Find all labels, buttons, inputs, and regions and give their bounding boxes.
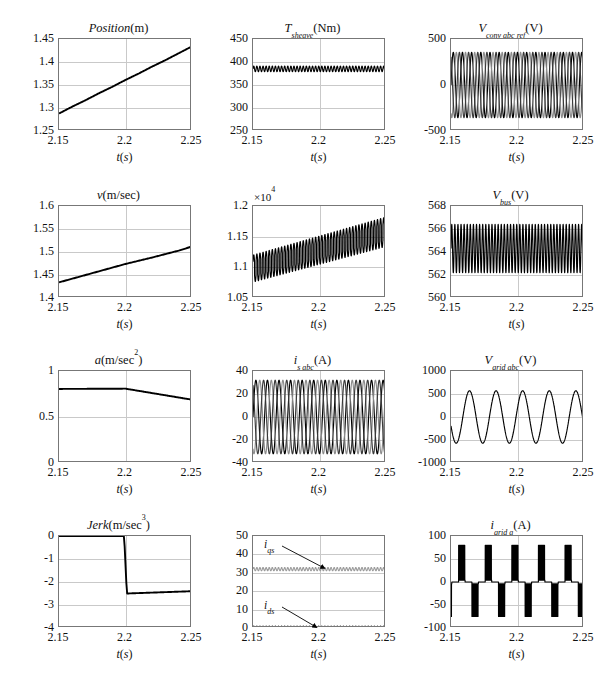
chart-title-i_grid_a: igrid a(A) [444, 518, 577, 532]
gridline-horizontal [253, 394, 384, 395]
y-tick-label: 1.35 [8, 77, 54, 92]
y-tick-label: 1.15 [202, 228, 248, 243]
y-tick-label: 0 [400, 574, 446, 589]
x-axis-label-position: t(s) [58, 150, 191, 165]
y-tick-label: -500 [400, 123, 446, 138]
x-axis-label-v_bus: t(s) [450, 317, 583, 332]
chart-traces-acceleration [59, 371, 191, 462]
x-tick-label: 2.15 [242, 630, 263, 645]
x-tick-label: 2.25 [181, 630, 202, 645]
x-tick-label: 2.15 [48, 465, 69, 480]
chart-axes-v_conv_abc_ref [450, 38, 583, 130]
chart-axes-acceleration [58, 370, 191, 462]
y-tick-label: 250 [202, 123, 248, 138]
series-phase-b [451, 52, 583, 117]
x-tick-label: 2.2 [311, 465, 326, 480]
chart-axes-p_m [252, 205, 385, 297]
y-tick-label: -3 [8, 597, 54, 612]
x-tick-label: 2.15 [242, 465, 263, 480]
chart-axes-position [58, 38, 191, 130]
x-tick-label: 2.2 [117, 630, 132, 645]
y-tick-label: 0 [202, 620, 248, 635]
x-tick-label: 2.15 [48, 133, 69, 148]
x-tick-label: 2.25 [375, 300, 396, 315]
x-tick-label: 2.2 [311, 630, 326, 645]
chart-title-position: Position(m) [52, 21, 185, 35]
y-tick-label: 0 [400, 409, 446, 424]
y-tick-label: 568 [400, 198, 446, 213]
y-tick-label: 1.6 [8, 198, 54, 213]
chart-panel-i_dq: 010203040502.152.22.25t(s)iqsids [0, 0, 594, 676]
chart-traces-velocity [59, 206, 191, 297]
gridline-horizontal [59, 85, 190, 86]
x-tick-label: 2.15 [242, 300, 263, 315]
gridline-horizontal [253, 554, 384, 555]
chart-traces-t_sheave [253, 39, 385, 130]
gridline-horizontal [451, 582, 582, 583]
x-tick-label: 2.25 [181, 300, 202, 315]
y-tick-label: 0 [8, 455, 54, 470]
y-tick-label: 1000 [400, 363, 446, 378]
chart-panel-acceleration: a(m/sec2)00.512.152.22.25t(s) [0, 0, 594, 676]
gridline-horizontal [451, 85, 582, 86]
chart-traces-p_m [253, 206, 385, 297]
chart-panel-v_conv_abc_ref: Vconv abc ref(V)-50005002.152.22.25t(s) [0, 0, 594, 676]
y-tick-label: 50 [202, 528, 248, 543]
y-tick-label: 560 [400, 290, 446, 305]
gridline-vertical [320, 536, 321, 626]
y-tick-label: 1.1 [202, 259, 248, 274]
chart-panel-velocity: v(m/sec)1.41.451.51.551.62.152.22.25t(s) [0, 0, 594, 676]
series-phase-a [451, 52, 583, 117]
gridline-horizontal [59, 229, 190, 230]
gridline-horizontal [59, 108, 190, 109]
y-tick-label: 1.05 [202, 290, 248, 305]
chart-axes-i_dq [252, 535, 385, 627]
y-tick-label: -500 [400, 432, 446, 447]
y-tick-label: 0.5 [8, 409, 54, 424]
x-tick-label: 2.15 [242, 133, 263, 148]
chart-panel-p_m: Pm(W)×1041.051.11.151.22.152.22.25t(s) [0, 0, 594, 676]
series-i_grid-a [451, 545, 583, 616]
series-V_bus [451, 224, 583, 272]
x-tick-label: 2.2 [311, 300, 326, 315]
chart-panel-i_s_abc: is abc(A)-40-20020402.152.22.25t(s) [0, 0, 594, 676]
series-phase-c [451, 52, 583, 117]
chart-traces-jerk [59, 536, 191, 627]
series-phase-a [253, 380, 385, 454]
series-position [59, 46, 191, 113]
y-tick-label: -40 [202, 455, 248, 470]
x-axis-label-i_grid_a: t(s) [450, 647, 583, 662]
x-tick-label: 2.2 [117, 300, 132, 315]
gridline-vertical [320, 206, 321, 296]
y-tick-label: 1.25 [8, 123, 54, 138]
chart-axes-i_s_abc [252, 370, 385, 462]
y-tick-label: -2 [8, 574, 54, 589]
y-tick-label: 564 [400, 244, 446, 259]
x-axis-label-t_sheave: t(s) [252, 150, 385, 165]
y-tick-label: 20 [202, 583, 248, 598]
gridline-horizontal [253, 591, 384, 592]
gridline-horizontal [253, 267, 384, 268]
gridline-horizontal [253, 610, 384, 611]
y-tick-label: 1.5 [8, 244, 54, 259]
y-tick-label: 1.2 [202, 198, 248, 213]
y-tick-label: 100 [400, 528, 446, 543]
chart-title-p_m: Pm(W) [257, 207, 390, 221]
series-T_sheave [253, 66, 385, 72]
y-tick-label: 0 [202, 409, 248, 424]
y-tick-label: -20 [202, 432, 248, 447]
gridline-horizontal [451, 394, 582, 395]
gridline-horizontal [451, 275, 582, 276]
x-axis-label-acceleration: t(s) [58, 482, 191, 497]
y-tick-label: 400 [202, 54, 248, 69]
gridline-horizontal [451, 559, 582, 560]
gridline-horizontal [451, 229, 582, 230]
y-tick-label: -1 [8, 551, 54, 566]
x-tick-label: 2.25 [573, 465, 594, 480]
chart-title-t_sheave: Tsheave(Nm) [246, 21, 379, 35]
y-tick-label: 562 [400, 267, 446, 282]
series-grid-voltage [451, 391, 583, 443]
y-tick-label: 1.45 [8, 267, 54, 282]
chart-title-v_grid_abc: Vgrid abc(V) [444, 353, 577, 367]
x-tick-label: 2.25 [181, 465, 202, 480]
